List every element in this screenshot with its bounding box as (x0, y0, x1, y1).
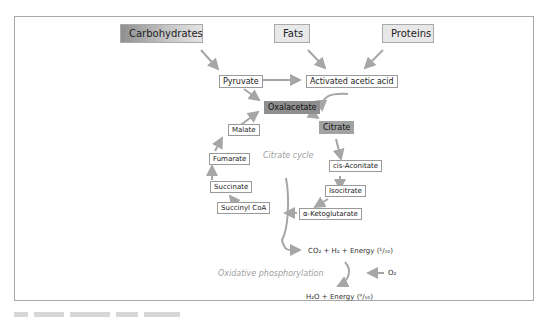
arrow-cycle-co2 (282, 178, 300, 250)
activated-acetic-acid-box: Activated acetic acid (306, 75, 398, 88)
caption-fragment (116, 312, 138, 317)
isocitrate-box: Isocitrate (325, 185, 366, 197)
carbohydrates-label: Carbohydrates (129, 28, 203, 39)
citrate-cycle-label: Citrate cycle (263, 151, 313, 160)
cis-aconitate-box: cis-Aconitate (329, 160, 382, 172)
ketoglutarate-box: α-Ketoglutarate (299, 208, 362, 220)
proteins-label: Proteins (391, 28, 431, 39)
fats-box: Fats (274, 24, 310, 43)
o2-label: O₂ (388, 269, 396, 277)
pyruvate-box: Pyruvate (219, 75, 263, 88)
caption-fragment (70, 312, 110, 317)
oxalacetate-label: Oxalacetate (268, 103, 316, 112)
arrow-carb-pyruvate (201, 50, 218, 69)
caption-fragment (144, 312, 180, 317)
caption-fragment (34, 312, 64, 317)
arrow-fats-acetic (308, 50, 325, 68)
malate-box: Malate (228, 124, 260, 136)
succinate-label: Succinate (214, 183, 248, 191)
h2o-output-label: H₂O + Energy (⁹/₁₀) (306, 293, 373, 301)
proteins-box: Proteins (382, 24, 434, 43)
arrow-fumarate-malate (215, 138, 222, 151)
caption-cropped (14, 312, 214, 320)
ketoglutarate-label: α-Ketoglutarate (303, 210, 358, 218)
isocitrate-label: Isocitrate (329, 187, 362, 195)
co2-output-label: CO₂ + H₂ + Energy (¹/₁₀) (308, 247, 393, 255)
fumarate-label: Fumarate (213, 155, 246, 163)
succinyl-coa-label: Succinyl CoA (221, 204, 266, 212)
carbohydrates-box: Carbohydrates (120, 24, 203, 43)
fats-label: Fats (283, 28, 303, 39)
citrate-box: Citrate (319, 121, 354, 134)
arrow-proteins-acetic (365, 50, 383, 68)
pyruvate-label: Pyruvate (223, 77, 259, 86)
caption-fragment (14, 312, 28, 317)
oxalacetate-box: Oxalacetate (264, 101, 320, 114)
cis-aconitate-label: cis-Aconitate (333, 162, 378, 170)
citrate-label: Citrate (323, 123, 350, 132)
activated-acetic-acid-label: Activated acetic acid (310, 77, 394, 86)
oxidative-phosphorylation-label: Oxidative phosphorylation (218, 269, 324, 278)
succinate-box: Succinate (210, 181, 252, 193)
arrow-citrate-aconitate (336, 139, 341, 159)
succinyl-coa-box: Succinyl CoA (217, 202, 270, 214)
arrow-acetic-citrate (322, 94, 348, 110)
malate-label: Malate (232, 126, 256, 134)
arrow-pyruvate-oxalacetate (244, 89, 259, 100)
arrow-isocitrate-keto (315, 199, 328, 207)
arrow-co2-h2o (338, 262, 349, 286)
fumarate-box: Fumarate (209, 153, 250, 165)
